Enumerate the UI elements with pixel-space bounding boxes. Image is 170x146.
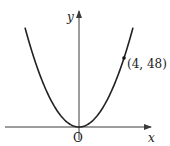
point-label: (4, 48) — [127, 57, 167, 71]
marked-point — [122, 56, 126, 60]
parabola-diagram: (4, 48) y x O — [0, 0, 170, 146]
y-axis-label: y — [66, 10, 74, 24]
origin-label: O — [73, 131, 83, 145]
x-axis-label: x — [148, 131, 155, 145]
